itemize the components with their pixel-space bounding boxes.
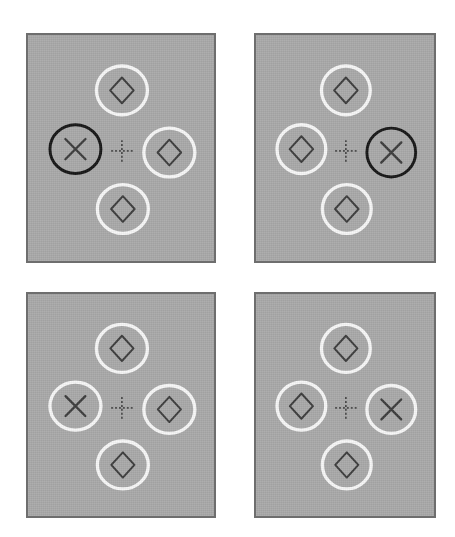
ring-panel-bottom-left-bottom[interactable] [97,441,148,489]
diamond-symbol-panel-top-left-top [110,78,134,104]
panel-top-right[interactable] [254,33,436,263]
panel-top-left-stimulus-layer [28,35,214,261]
diamond-symbol-panel-bottom-right-bottom [335,452,358,477]
panel-top-left-item-right[interactable] [144,128,195,177]
panel-bottom-right-stimulus-layer [256,294,434,516]
diamond-symbol-panel-bottom-right-top [334,336,357,361]
panel-top-right-item-bottom[interactable] [322,185,371,234]
diamond-symbol-panel-bottom-right-left [290,393,313,418]
panel-top-right-item-left[interactable] [277,125,326,174]
ring-panel-top-left-right[interactable] [144,128,195,177]
x-symbol-panel-bottom-left-left [66,396,86,416]
panel-bottom-left-item-top[interactable] [96,324,147,372]
panel-bottom-right-item-bottom[interactable] [322,441,371,489]
ring-panel-bottom-right-bottom[interactable] [322,441,371,489]
ring-panel-top-right-left[interactable] [277,125,326,174]
ring-panel-top-right-bottom[interactable] [322,185,371,234]
panel-top-right-item-right[interactable] [367,128,416,177]
diamond-symbol-panel-top-right-left [290,136,314,162]
diamond-symbol-panel-bottom-left-right [158,397,181,422]
panel-bottom-left[interactable] [26,292,216,518]
panel-top-left-item-left[interactable] [50,125,101,174]
panel-top-left-item-bottom[interactable] [97,185,148,234]
ring-panel-bottom-right-left[interactable] [277,382,326,430]
panel-top-right-stimulus-layer [256,35,434,261]
fixation-cross-icon [111,397,133,419]
fixation-cross-icon [335,140,357,162]
fixation-cross-icon [111,140,133,162]
panel-bottom-right[interactable] [254,292,436,518]
panel-bottom-right-item-right[interactable] [367,385,416,433]
panel-bottom-left-item-bottom[interactable] [97,441,148,489]
panel-bottom-left-item-right[interactable] [144,385,195,433]
ring-panel-top-left-top[interactable] [96,66,147,115]
ring-panel-top-right-top[interactable] [322,66,371,115]
diamond-symbol-panel-bottom-left-bottom [111,452,134,477]
panel-bottom-right-item-top[interactable] [322,324,371,372]
fixation-cross-icon [335,397,357,419]
panel-top-right-item-top[interactable] [322,66,371,115]
panel-bottom-right-item-left[interactable] [277,382,326,430]
diamond-symbol-panel-top-right-bottom [335,196,359,222]
x-symbol-panel-top-right-right [381,142,401,162]
ring-panel-top-left-bottom[interactable] [97,185,148,234]
figure-canvas [0,0,455,537]
x-symbol-panel-top-left-left [65,139,85,159]
diamond-symbol-panel-top-left-bottom [111,196,135,222]
diamond-symbol-panel-top-right-top [334,78,358,104]
ring-panel-bottom-right-top[interactable] [322,324,371,372]
ring-panel-bottom-left-right[interactable] [144,385,195,433]
x-symbol-panel-bottom-right-right [381,400,401,420]
panel-bottom-left-stimulus-layer [28,294,214,516]
panel-top-left-item-top[interactable] [96,66,147,115]
diamond-symbol-panel-top-left-right [158,140,182,166]
diamond-symbol-panel-bottom-left-top [110,336,133,361]
panel-top-left[interactable] [26,33,216,263]
ring-panel-bottom-left-top[interactable] [96,324,147,372]
panel-bottom-left-item-left[interactable] [50,382,101,430]
